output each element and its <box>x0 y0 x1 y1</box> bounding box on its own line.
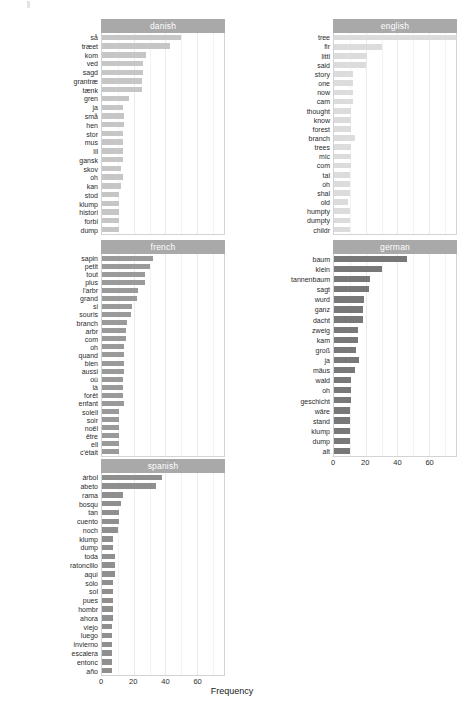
y-tick-label: cam <box>317 98 330 105</box>
y-tick-label: souris <box>79 311 98 318</box>
y-tick-label: soleil <box>82 409 98 416</box>
bar-one <box>334 80 353 86</box>
bar-row <box>102 375 224 383</box>
y-tick-label: aussi <box>82 368 98 375</box>
bar-row <box>102 440 224 448</box>
bar-hombr <box>102 606 113 611</box>
y-tick-label: hombr <box>78 606 98 613</box>
bar-wald <box>334 377 351 383</box>
bar-árbol <box>102 475 162 480</box>
plot-area-spanish <box>101 473 225 676</box>
bar-c'était <box>102 449 119 454</box>
bar-row <box>102 391 224 399</box>
y-axis-tick-labels-spanish: árbolabetoramabosqutancuentonochklumpdum… <box>57 473 101 676</box>
y-tick-label: skov <box>84 166 98 173</box>
y-tick-label: kom <box>85 52 98 59</box>
bar-arbr <box>102 328 126 333</box>
bar-wurd <box>334 296 364 302</box>
bar-row <box>334 225 456 234</box>
bar-row <box>102 473 224 482</box>
bar-row <box>102 112 224 121</box>
y-tick-label: ved <box>87 60 98 67</box>
bar-row <box>102 199 224 208</box>
y-tick-label: tout <box>86 271 98 278</box>
bar-row <box>102 68 224 77</box>
bar-row <box>102 448 224 456</box>
bar-row <box>334 70 456 79</box>
bar-row <box>102 570 224 579</box>
bar-row <box>334 179 456 188</box>
y-tick-label: entonc <box>77 659 98 666</box>
bar-grand <box>102 296 137 301</box>
bar-row <box>334 436 456 446</box>
bar-row <box>102 173 224 182</box>
x-tick-label: 40 <box>161 677 169 686</box>
y-tick-label: now <box>317 89 330 96</box>
y-tick-label: dumpty <box>307 217 330 224</box>
bar-año <box>102 668 112 673</box>
y-tick-label: trees <box>314 144 330 151</box>
bar-row <box>102 491 224 500</box>
y-tick-label: klump <box>311 428 330 435</box>
y-tick-label: old <box>321 199 330 206</box>
bar-rama <box>102 492 123 497</box>
bar-luego <box>102 633 112 638</box>
bar-histori <box>102 209 119 214</box>
bar-childr <box>334 227 350 233</box>
bar-row <box>102 190 224 199</box>
bar-row <box>334 161 456 170</box>
y-tick-label: bosqu <box>79 501 98 508</box>
bar-row <box>334 79 456 88</box>
bar-com <box>334 163 351 169</box>
bar-grantræ <box>102 78 142 83</box>
y-tick-label: gren <box>84 95 98 102</box>
bar-row <box>334 33 456 42</box>
y-axis-tick-labels-french: sapinpetittoutplusl'arbrgrandsisourisbra… <box>57 254 101 457</box>
y-tick-label: sagt <box>317 286 330 293</box>
y-tick-label: små <box>85 113 98 120</box>
bar-row <box>334 170 456 179</box>
bar-mäus <box>334 367 355 373</box>
bar-tout <box>102 272 145 277</box>
x-tick-label: 20 <box>129 677 137 686</box>
y-tick-label: enfant <box>79 400 98 407</box>
y-tick-label: cuento <box>77 518 98 525</box>
bar-plus <box>102 280 145 285</box>
bar-abeto <box>102 483 156 488</box>
x-tick-label: 20 <box>361 458 369 467</box>
bar-kan <box>102 183 121 188</box>
bar-row <box>102 262 224 270</box>
bar-row <box>102 181 224 190</box>
bar-row <box>102 50 224 59</box>
y-tick-label: invierno <box>73 641 98 648</box>
bar-forêt <box>102 393 123 398</box>
y-tick-label: klein <box>316 266 330 273</box>
bar-row <box>102 432 224 440</box>
bar-row <box>334 446 456 456</box>
bar-tan <box>102 510 119 515</box>
bar-dump <box>102 545 113 550</box>
bar-row <box>334 335 456 345</box>
bar-forest <box>334 126 351 132</box>
bar-klump <box>102 536 113 541</box>
bar-row <box>102 587 224 596</box>
bar-row <box>102 42 224 51</box>
y-tick-label: histori <box>79 209 98 216</box>
y-tick-label: mäus <box>313 367 330 374</box>
bar-row <box>102 335 224 343</box>
y-tick-label: mic <box>319 153 330 160</box>
y-tick-label: escalera <box>72 650 98 657</box>
y-tick-label: quand <box>79 352 98 359</box>
facet-strip-label-danish: danish <box>101 19 225 33</box>
bar-row <box>334 134 456 143</box>
y-tick-label: wurd <box>315 296 330 303</box>
bar-row <box>334 60 456 69</box>
y-tick-label: stod <box>85 192 98 199</box>
bar-entonc <box>102 659 112 664</box>
bar-noch <box>102 527 118 532</box>
y-tick-label: baum <box>312 256 330 263</box>
bar-humpty <box>334 208 350 214</box>
bar-row <box>102 33 224 42</box>
bar-forbi <box>102 218 119 223</box>
y-tick-label: ja <box>325 357 330 364</box>
